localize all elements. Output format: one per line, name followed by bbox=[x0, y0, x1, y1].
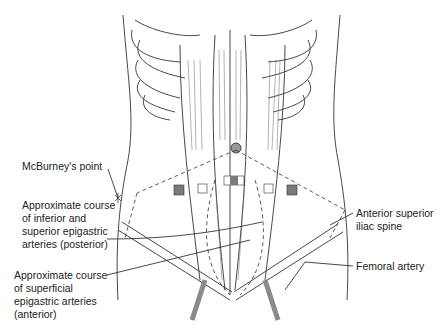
port-left-filled bbox=[174, 185, 184, 195]
torso-outline-right bbox=[334, 15, 348, 300]
label-superficial-l3: epigastric arteries bbox=[14, 295, 97, 308]
label-superficial-l2: of superficial bbox=[14, 282, 73, 295]
label-inferior-superior-l1: Approximate course bbox=[22, 199, 115, 212]
port-center-fill bbox=[230, 176, 238, 185]
label-superficial-l1: Approximate course bbox=[14, 269, 107, 282]
label-inferior-superior-l4: arteries (posterior) bbox=[22, 238, 108, 251]
port-right-empty bbox=[264, 184, 273, 193]
torso-outline-left bbox=[117, 15, 131, 300]
leader-posterior bbox=[107, 222, 262, 239]
label-inferior-superior-l2: of inferior and bbox=[22, 212, 86, 225]
port-right-filled bbox=[287, 185, 297, 195]
leader-femoral bbox=[285, 262, 353, 290]
label-femoral-artery: Femoral artery bbox=[356, 260, 424, 273]
leader-anterior bbox=[107, 240, 250, 275]
leader-asis bbox=[330, 213, 353, 225]
port-left-empty bbox=[198, 184, 207, 193]
label-asis-l1: Anterior superior bbox=[356, 207, 434, 220]
label-mcburney-point: McBurney's point bbox=[22, 160, 102, 173]
label-inferior-superior-l3: superior epigastric bbox=[22, 225, 108, 238]
label-asis-l2: iliac spine bbox=[356, 220, 402, 233]
label-superficial-l4: (anterior) bbox=[14, 308, 57, 321]
leader-mcburney bbox=[108, 169, 118, 198]
